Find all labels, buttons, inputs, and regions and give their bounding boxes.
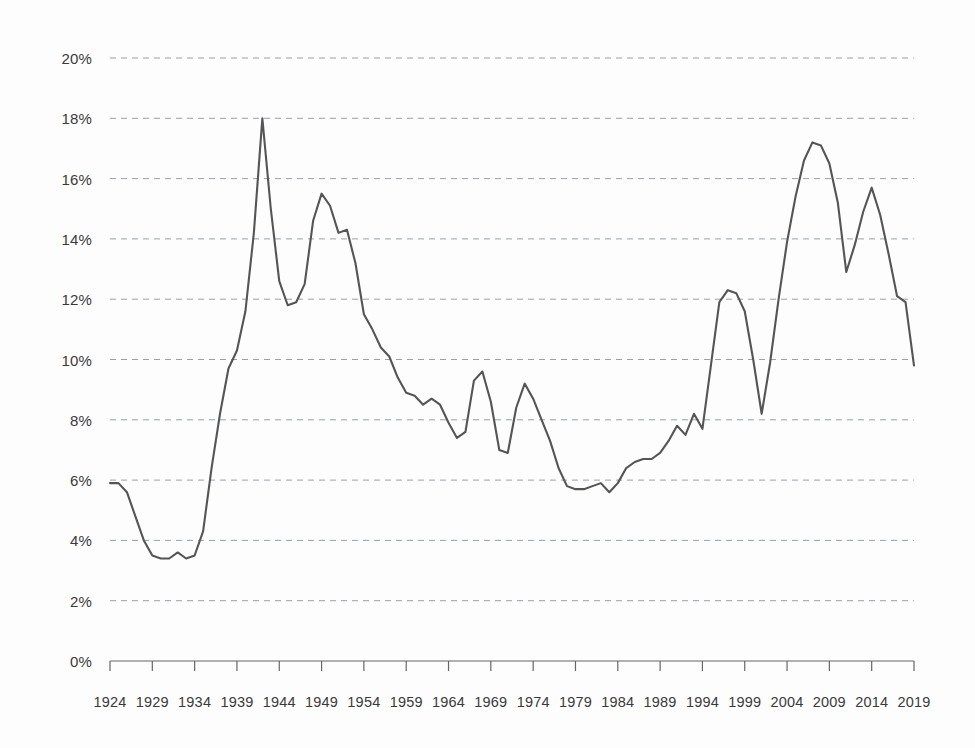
x-tick-label-1989: 1989 (644, 694, 677, 710)
line-chart-plot (0, 0, 975, 748)
y-tick-label-12: 12% (30, 291, 92, 308)
x-tick-label-1954: 1954 (347, 694, 380, 710)
y-tick-label-8: 8% (30, 411, 92, 428)
x-tick-label-2019: 2019 (897, 694, 930, 710)
y-tick-label-10: 10% (30, 351, 92, 368)
x-tick-label-1939: 1939 (220, 694, 253, 710)
x-tick-label-1979: 1979 (559, 694, 592, 710)
x-tick-label-1994: 1994 (686, 694, 719, 710)
x-tick-label-1944: 1944 (263, 694, 296, 710)
x-tick-label-2004: 2004 (771, 694, 804, 710)
x-tick-label-1969: 1969 (474, 694, 507, 710)
y-tick-label-14: 14% (30, 230, 92, 247)
x-tick-label-2009: 2009 (813, 694, 846, 710)
y-tick-label-0: 0% (30, 653, 92, 670)
x-tick-label-1964: 1964 (432, 694, 465, 710)
x-tick-label-2014: 2014 (855, 694, 888, 710)
x-tick-label-1934: 1934 (178, 694, 211, 710)
y-tick-label-2: 2% (30, 592, 92, 609)
x-tick-label-1929: 1929 (136, 694, 169, 710)
y-tick-label-6: 6% (30, 472, 92, 489)
x-tick-label-1974: 1974 (517, 694, 550, 710)
x-tick-label-1924: 1924 (93, 694, 126, 710)
x-tick-label-1999: 1999 (728, 694, 761, 710)
x-tick-label-1984: 1984 (601, 694, 634, 710)
gridlines (110, 58, 914, 601)
x-axis-line (110, 661, 914, 671)
y-tick-label-16: 16% (30, 170, 92, 187)
x-tick-label-1949: 1949 (305, 694, 338, 710)
data-line-Rate (110, 118, 914, 558)
y-tick-label-18: 18% (30, 110, 92, 127)
y-tick-label-4: 4% (30, 532, 92, 549)
y-tick-label-20: 20% (30, 50, 92, 67)
chart-container: 20%18%16%14%12%10%8%6%4%2%0% 19241929193… (0, 0, 975, 748)
x-tick-label-1959: 1959 (390, 694, 423, 710)
